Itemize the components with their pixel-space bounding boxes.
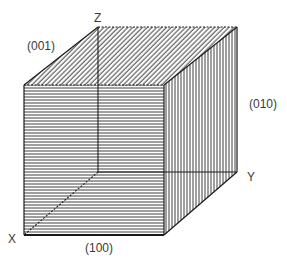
front-face-label: (100)	[85, 241, 113, 255]
side-face-label: (010)	[249, 97, 277, 111]
y-axis-label: Y	[247, 170, 255, 184]
cube-diagram: Z Y X (001) (010) (100)	[0, 0, 287, 262]
z-axis-label: Z	[94, 11, 101, 25]
x-axis-label: X	[8, 232, 16, 246]
front-face-100	[24, 85, 164, 235]
top-face-label: (001)	[27, 39, 55, 53]
